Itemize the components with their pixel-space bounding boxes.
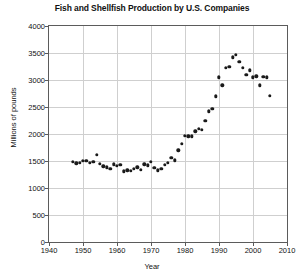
chart-figure: Fish and Shellfish Production by U.S. Co… xyxy=(0,0,304,276)
data-point xyxy=(163,163,166,166)
data-point xyxy=(204,119,207,122)
x-tick-label: 1980 xyxy=(177,246,194,255)
y-tick-mark xyxy=(45,53,49,54)
y-tick-label: 1000 xyxy=(28,184,45,193)
data-point xyxy=(238,60,241,63)
y-tick-label: 3000 xyxy=(28,76,45,85)
data-point xyxy=(146,164,149,167)
y-tick-label: 0 xyxy=(41,238,45,247)
y-tick-label: 500 xyxy=(32,211,45,220)
y-tick-mark xyxy=(45,80,49,81)
y-gridline xyxy=(49,215,287,216)
data-point xyxy=(255,75,258,78)
data-point xyxy=(190,134,193,137)
data-point xyxy=(159,167,162,170)
y-tick-mark xyxy=(45,134,49,135)
y-gridline xyxy=(49,188,287,189)
data-point xyxy=(166,161,169,164)
y-tick-label: 2000 xyxy=(28,130,45,139)
x-tick-label: 1990 xyxy=(211,246,228,255)
data-point xyxy=(210,107,213,110)
y-tick-label: 3500 xyxy=(28,49,45,58)
data-point xyxy=(217,76,220,79)
plot-area: 1940195019601970198019902000201005001000… xyxy=(48,25,288,243)
x-tick-label: 1970 xyxy=(143,246,160,255)
data-point xyxy=(214,94,217,97)
data-point xyxy=(265,76,268,79)
data-point xyxy=(193,130,196,133)
y-axis-label: Millions of pounds xyxy=(9,58,18,178)
x-axis-label: Year xyxy=(0,262,304,271)
data-point xyxy=(207,110,210,113)
y-tick-label: 1500 xyxy=(28,157,45,166)
y-tick-mark xyxy=(45,26,49,27)
y-gridline xyxy=(49,53,287,54)
data-point xyxy=(248,69,251,72)
data-point xyxy=(149,160,152,163)
data-point xyxy=(244,73,247,76)
chart-title: Fish and Shellfish Production by U.S. Co… xyxy=(0,3,304,13)
x-tick-label: 1960 xyxy=(109,246,126,255)
x-tick-label: 1950 xyxy=(75,246,92,255)
data-point xyxy=(180,142,183,145)
x-tick-label: 2000 xyxy=(245,246,262,255)
y-tick-label: 4000 xyxy=(28,22,45,31)
data-point xyxy=(119,163,122,166)
data-point xyxy=(176,148,179,151)
x-tick-label: 2010 xyxy=(279,246,296,255)
data-point xyxy=(95,153,98,156)
y-tick-label: 2500 xyxy=(28,103,45,112)
data-point xyxy=(268,94,271,97)
data-point xyxy=(91,160,94,163)
y-tick-mark xyxy=(45,161,49,162)
data-point xyxy=(221,84,224,87)
y-gridline xyxy=(49,134,287,135)
y-tick-mark xyxy=(45,242,49,243)
data-point xyxy=(108,167,111,170)
data-point xyxy=(241,66,244,69)
data-point xyxy=(200,128,203,131)
data-point xyxy=(139,168,142,171)
y-gridline xyxy=(49,107,287,108)
data-point xyxy=(227,65,230,68)
data-point xyxy=(258,84,261,87)
data-point xyxy=(231,56,234,59)
y-tick-mark xyxy=(45,188,49,189)
y-tick-mark xyxy=(45,107,49,108)
data-point xyxy=(234,53,237,56)
data-point xyxy=(129,169,132,172)
y-gridline xyxy=(49,80,287,81)
x-tick-label: 1940 xyxy=(41,246,58,255)
y-tick-mark xyxy=(45,215,49,216)
